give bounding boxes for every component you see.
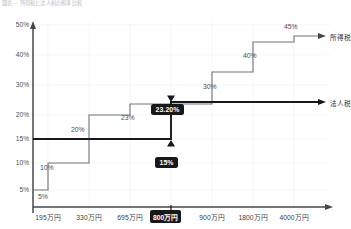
x-tick-4000: 4000万円 xyxy=(271,212,317,222)
step-label-30: 30% xyxy=(203,83,217,90)
series-label-income-tax: 所得税 xyxy=(330,32,351,42)
step-label-45: 45% xyxy=(284,23,298,30)
x-tick-800-highlighted: 800万円 xyxy=(150,210,181,223)
y-tick-10: 10% xyxy=(2,159,29,166)
step-label-20: 20% xyxy=(71,126,85,133)
series-label-corporate-tax: 法人税 xyxy=(330,98,351,108)
callout-corporate-23-20: 23.20% xyxy=(151,104,184,115)
x-tick-900: 900万円 xyxy=(189,212,235,222)
callout-corporate-15: 15% xyxy=(155,157,178,168)
x-tick-695: 695万円 xyxy=(107,212,153,222)
step-label-40: 40% xyxy=(243,52,257,59)
step-label-23: 23% xyxy=(121,114,135,121)
x-axis-arrow xyxy=(325,204,333,210)
y-tick-15: 15% xyxy=(2,135,29,142)
y-tick-20: 20% xyxy=(2,111,29,118)
x-tick-1800: 1800万円 xyxy=(230,212,276,222)
y-tick-5: 5% xyxy=(2,186,29,193)
step-label-10: 10% xyxy=(40,164,54,171)
x-tick-195: 195万円 xyxy=(25,212,71,222)
x-tick-330: 330万円 xyxy=(66,212,112,222)
y-tick-50: 50% xyxy=(2,21,29,28)
step-label-5: 5% xyxy=(38,193,48,200)
corporate-tax-arrowhead xyxy=(318,99,326,105)
income-tax-arrowhead xyxy=(318,33,326,39)
y-tick-30: 30% xyxy=(2,81,29,88)
y-tick-40: 40% xyxy=(2,51,29,58)
